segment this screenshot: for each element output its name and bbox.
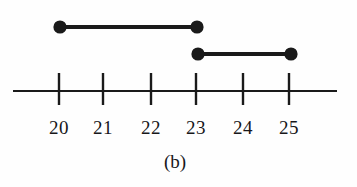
number-line-canvas	[0, 0, 357, 187]
interval-1-left-endpoint-dot	[53, 20, 66, 33]
interval-segment-2	[191, 47, 297, 60]
interval-2-right-endpoint-dot	[284, 47, 297, 60]
interval-segment-1	[53, 20, 203, 33]
interval-2-left-endpoint-dot	[191, 47, 204, 60]
axis-tick-group	[59, 73, 289, 105]
number-line-figure: 20 21 22 23 24 25 (b)	[0, 0, 357, 187]
interval-1-right-endpoint-dot	[190, 20, 203, 33]
